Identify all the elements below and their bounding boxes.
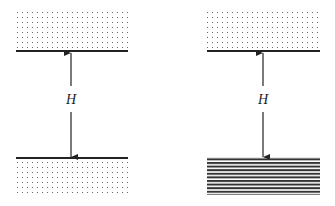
right-separation-label: H <box>258 92 268 108</box>
right-bottom-striped-region <box>207 157 320 195</box>
left-separation-label: H <box>66 92 76 108</box>
left-top-dotted-region <box>16 10 128 50</box>
left-bottom-dotted-region <box>16 159 128 195</box>
right-top-dotted-region <box>207 10 320 50</box>
diagram-canvas <box>0 0 335 206</box>
